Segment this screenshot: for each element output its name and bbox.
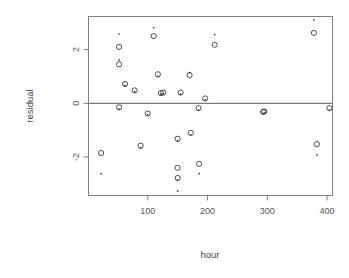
data-point-dot — [177, 190, 179, 192]
data-point-dot — [316, 154, 318, 156]
data-point-dot — [313, 19, 315, 21]
x-tick-label: 100 — [140, 206, 155, 216]
data-point-dot — [198, 173, 200, 175]
data-point-dot — [118, 59, 120, 61]
data-point-dot — [100, 173, 102, 175]
data-point-dot — [153, 27, 155, 29]
y-tick-label: -2 — [71, 153, 81, 161]
x-tick-label: 400 — [320, 206, 335, 216]
scatter-plot-figure: 100200300400 20-2 hour residual — [0, 0, 349, 278]
x-tick-label: 200 — [200, 206, 215, 216]
data-point-dot — [214, 34, 216, 36]
x-axis-title: hour — [200, 249, 219, 260]
plot-canvas: 100200300400 20-2 hour residual — [0, 0, 349, 278]
data-point-dot — [134, 91, 136, 93]
data-point-dot — [204, 99, 206, 101]
y-tick-label: 0 — [71, 101, 81, 106]
x-tick-label: 300 — [260, 206, 275, 216]
data-point-dot — [147, 114, 149, 116]
figure-background — [0, 0, 349, 278]
y-axis-title: residual — [24, 89, 35, 122]
y-tick-label: 2 — [71, 47, 81, 52]
data-point-dot — [118, 33, 120, 35]
